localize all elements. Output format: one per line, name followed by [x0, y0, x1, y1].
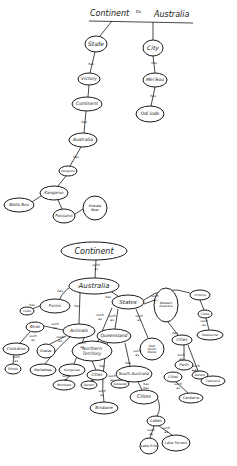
concept-node-cities_nt: Cities	[87, 370, 107, 380]
top-title-australia: Australia	[153, 10, 189, 19]
edge-label: has	[125, 361, 131, 365]
edge-label: as	[194, 368, 198, 372]
concept-node-city: City	[143, 40, 163, 56]
node-label: Kangaroos	[64, 368, 80, 372]
edge	[79, 293, 80, 324]
node-label: Territory	[83, 351, 102, 356]
node-label: Victoria	[194, 293, 206, 297]
top-title-continent: Continent	[90, 9, 130, 18]
concept-node-cockatoo: Cockatoo	[3, 343, 29, 355]
edge	[100, 21, 112, 36]
node-label: Darwin	[195, 373, 206, 377]
node-label: Darwin	[84, 383, 95, 387]
node-label: Victory	[81, 76, 97, 81]
concept-node-continent: Continent	[61, 242, 127, 260]
top-title-underline	[89, 21, 193, 23]
edge-label: has	[151, 61, 157, 65]
edge-label: as	[110, 318, 114, 322]
node-label: Cows	[23, 309, 31, 313]
edge-label: has	[81, 120, 87, 124]
concept-node-victory: Victory	[78, 73, 100, 85]
top-title-example: Ex.	[136, 9, 142, 14]
edge	[32, 196, 41, 202]
node-label: Continent	[74, 247, 114, 256]
edge-label: has	[57, 289, 63, 293]
edge	[115, 309, 118, 329]
node-label: Possums	[55, 213, 73, 218]
node-label: Lake Torrens	[165, 441, 187, 445]
node-label: Lakes	[150, 418, 162, 423]
node-label: Mel Bou	[146, 77, 164, 82]
node-label: Continent	[76, 101, 98, 106]
concept-node-cities_w: Cities	[172, 335, 192, 345]
concept-node-queensland: Queensland	[97, 329, 131, 343]
node-label: Animals	[69, 328, 89, 333]
concept-node-kangaroo: Kangaroo	[40, 186, 68, 200]
concept-node-cities_s: Cities	[130, 390, 158, 404]
edge-label: as	[94, 267, 98, 271]
edge-label: as	[14, 359, 18, 363]
concept-node-cows: Cows	[20, 307, 34, 315]
bottom-map-nodes: ContinentAustraliaFormsStatesCowsBirdsAn…	[3, 242, 225, 454]
edge-label: has	[143, 386, 149, 390]
edge-label: as	[153, 298, 157, 302]
concept-node-states: States	[112, 295, 144, 309]
edge-label: as	[31, 338, 35, 342]
node-label: Melbourne	[202, 333, 218, 337]
concept-node-westaus: WesternAustralia	[154, 288, 178, 322]
node-label: Cities	[168, 375, 178, 379]
node-label: Cities	[91, 372, 102, 377]
edge	[138, 382, 142, 390]
top-map-nodes: StateCityVictoryMel BouContinentOdi lode…	[4, 36, 167, 223]
node-label: Wales	[148, 350, 157, 354]
concept-node-wallaboo: Walla Boo	[4, 198, 34, 212]
node-label: Wallabees	[34, 368, 52, 372]
edge-label: as	[176, 386, 180, 390]
concept-node-koalas: Koalas	[37, 344, 55, 358]
node-label: State	[88, 40, 104, 47]
concept-node-laketorrens: Lake Torrens	[162, 435, 190, 451]
edge-label: as	[135, 353, 139, 357]
concept-node-animals: Animals	[63, 324, 95, 338]
concept-node-cities_n: Cities	[164, 372, 182, 382]
edge	[75, 209, 83, 214]
node-label: States	[119, 299, 137, 305]
concept-node-wallabees: Wallabees	[30, 364, 56, 376]
concept-node-brisbane: Brisbane	[90, 402, 118, 414]
edge-label: as	[202, 323, 206, 327]
node-label: Kangaroo	[45, 190, 65, 195]
concept-node-possums: Possums	[53, 209, 75, 223]
edge-label: has	[73, 155, 79, 159]
node-label: Australia	[72, 137, 93, 142]
edge-label: has	[29, 303, 35, 307]
edge-label: has	[99, 364, 105, 368]
concept-node-australia: Australia	[69, 133, 97, 147]
node-label: Tasmania	[206, 379, 220, 383]
node-label: Brisbane	[95, 405, 113, 410]
node-label: Walla Boo	[9, 202, 29, 207]
concept-node-continent2: Continent	[72, 97, 102, 111]
concept-node-victoria: Victoria	[190, 290, 210, 300]
concept-node-nsw: NewSouthWales	[140, 338, 164, 360]
concept-node-darwin2: Darwin	[81, 381, 97, 389]
node-label: Emus	[8, 367, 18, 371]
node-label: Adelaide	[112, 382, 126, 386]
edge-label: as	[64, 378, 68, 382]
node-label: Koalas	[40, 349, 52, 353]
edge	[58, 176, 66, 186]
node-label: Australia	[78, 282, 110, 290]
edge-label: as	[164, 430, 168, 434]
node-label: Odi lode	[141, 111, 160, 116]
edge-label: has	[172, 331, 178, 335]
concept-map-canvas: Continent Ex. Australia StateCityVictory…	[0, 0, 237, 466]
concept-node-melbourne: Melbourne	[197, 330, 223, 340]
node-label: Australia	[158, 304, 172, 308]
node-label: Canberra	[183, 396, 199, 400]
edge	[88, 85, 89, 97]
node-label: South Australia	[119, 371, 150, 376]
concept-node-koala: KowalaBear	[83, 196, 107, 220]
concept-node-australia: Australia	[69, 278, 119, 294]
concept-node-lakeerie: Lake Erie	[140, 438, 158, 454]
edge-label: has	[74, 304, 80, 308]
concept-node-tasmania: Tasmania	[201, 376, 225, 386]
